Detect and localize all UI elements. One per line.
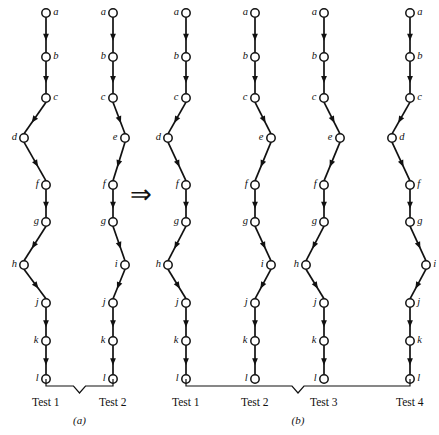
graph-node-d[interactable] <box>164 134 172 142</box>
graph-node-e[interactable] <box>336 134 344 142</box>
graph-node-h[interactable] <box>20 261 28 269</box>
graph-node-i[interactable] <box>267 261 275 269</box>
edge-arrowhead-b-c <box>407 76 413 83</box>
graph-node-a[interactable] <box>42 9 50 17</box>
graph-node-b[interactable] <box>251 53 259 61</box>
graph-node-g[interactable] <box>182 218 190 226</box>
graph-node-k[interactable] <box>251 337 259 345</box>
node-label-c: c <box>417 91 422 102</box>
graph-node-k[interactable] <box>320 337 328 345</box>
graph-node-b[interactable] <box>182 53 190 61</box>
node-label-k: k <box>312 334 317 345</box>
graph-node-k[interactable] <box>109 337 117 345</box>
edge-arrowhead-a-b <box>183 34 189 41</box>
graph-node-c[interactable] <box>182 94 190 102</box>
graph-node-j[interactable] <box>320 299 328 307</box>
graph-node-k[interactable] <box>406 337 414 345</box>
graph-node-f[interactable] <box>182 181 190 189</box>
graph-node-f[interactable] <box>251 181 259 189</box>
node-label-f: f <box>176 178 179 189</box>
panel-b-brace <box>186 379 410 393</box>
edge-arrowhead-b-c <box>321 76 327 83</box>
graph-node-a[interactable] <box>109 9 117 17</box>
graph-node-g[interactable] <box>320 218 328 226</box>
node-label-l: l <box>314 372 317 383</box>
figure-root: abcdfghjklTest 1abcefgijklTest 2(a)abcdf… <box>0 0 439 435</box>
node-label-a: a <box>312 6 317 17</box>
graph-node-a[interactable] <box>182 9 190 17</box>
graph-node-b[interactable] <box>320 53 328 61</box>
node-label-c: c <box>53 91 58 102</box>
node-label-e: e <box>113 131 118 142</box>
node-label-l: l <box>36 372 39 383</box>
node-label-d: d <box>12 131 17 142</box>
graph-node-g[interactable] <box>109 218 117 226</box>
node-label-a: a <box>101 6 106 17</box>
graph-node-c[interactable] <box>320 94 328 102</box>
node-label-f: f <box>36 178 39 189</box>
graph-node-d[interactable] <box>388 134 396 142</box>
graph-node-b[interactable] <box>406 53 414 61</box>
graph-node-g[interactable] <box>406 218 414 226</box>
graph-node-h[interactable] <box>164 261 172 269</box>
edge-arrowhead-g-i <box>116 241 121 249</box>
node-label-i: i <box>261 258 264 269</box>
graph-node-j[interactable] <box>109 299 117 307</box>
graph-node-c[interactable] <box>42 94 50 102</box>
graph-node-b[interactable] <box>109 53 117 61</box>
edge-arrowhead-e-f <box>117 160 123 168</box>
node-label-d: d <box>156 131 161 142</box>
double-right-arrow-icon: ⇒ <box>130 182 152 208</box>
graph-node-f[interactable] <box>320 181 328 189</box>
edge-arrowhead-e-f <box>330 159 335 167</box>
graph-node-i[interactable] <box>121 261 129 269</box>
edge-arrowhead-j-k <box>183 320 189 327</box>
graph-node-f[interactable] <box>42 181 50 189</box>
graph-node-k[interactable] <box>42 337 50 345</box>
node-label-f: f <box>417 178 420 189</box>
node-label-f: f <box>103 178 106 189</box>
node-label-l: l <box>176 372 179 383</box>
graph-node-j[interactable] <box>42 299 50 307</box>
node-label-b: b <box>53 50 58 61</box>
graph-node-l[interactable] <box>320 375 328 383</box>
graph-node-e[interactable] <box>267 134 275 142</box>
edge-arrowhead-a-b <box>407 34 413 41</box>
graph-node-e[interactable] <box>121 134 129 142</box>
panel-b-column-2 <box>251 9 275 383</box>
graph-node-g[interactable] <box>251 218 259 226</box>
graph-node-g[interactable] <box>42 218 50 226</box>
node-label-a: a <box>243 6 248 17</box>
edge-arrowhead-f-g <box>183 202 189 209</box>
panel-b-column-1 <box>164 9 190 383</box>
node-label-l: l <box>245 372 248 383</box>
node-label-k: k <box>174 334 179 345</box>
edge-arrowhead-k-l <box>110 358 116 365</box>
graph-node-k[interactable] <box>182 337 190 345</box>
graph-node-j[interactable] <box>251 299 259 307</box>
graph-node-h[interactable] <box>302 261 310 269</box>
graph-node-a[interactable] <box>251 9 259 17</box>
node-label-j: j <box>36 296 39 307</box>
node-label-g: g <box>174 215 179 226</box>
node-label-b: b <box>417 50 422 61</box>
graph-node-d[interactable] <box>20 134 28 142</box>
node-label-c: c <box>101 91 106 102</box>
graph-node-a[interactable] <box>320 9 328 17</box>
node-label-f: f <box>314 178 317 189</box>
node-label-b: b <box>312 50 317 61</box>
graph-node-c[interactable] <box>251 94 259 102</box>
graph-node-f[interactable] <box>109 181 117 189</box>
graph-node-j[interactable] <box>182 299 190 307</box>
graph-node-b[interactable] <box>42 53 50 61</box>
graph-node-l[interactable] <box>251 375 259 383</box>
graph-node-c[interactable] <box>406 94 414 102</box>
graph-node-i[interactable] <box>422 261 430 269</box>
edge-arrowhead-j-k <box>321 320 327 327</box>
graph-node-a[interactable] <box>406 9 414 17</box>
graph-node-j[interactable] <box>406 299 414 307</box>
edge-arrowhead-i-j <box>117 281 122 289</box>
node-label-c: c <box>243 91 248 102</box>
graph-node-c[interactable] <box>109 94 117 102</box>
graph-node-f[interactable] <box>406 181 414 189</box>
